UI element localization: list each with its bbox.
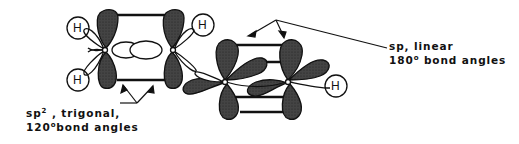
sp-label-line2: 180o bond angles: [389, 53, 506, 67]
hydrogen-label: H: [73, 21, 82, 35]
sp2-molecule: [67, 10, 214, 91]
sp2-label-line2: 120obond angles: [26, 120, 139, 134]
sp-label: sp, linear 180o bond angles: [389, 39, 506, 67]
sp2-label: sp2 , trigonal, 120obond angles: [26, 106, 139, 134]
sp-label-line1: sp, linear: [389, 39, 506, 53]
sp2-label-line1: sp2 , trigonal,: [26, 106, 139, 120]
hydrogen-label: H: [198, 18, 207, 32]
sp-molecule: [183, 40, 347, 119]
hydrogen-label: H: [73, 73, 82, 87]
sp2-pointer: [120, 85, 154, 103]
hydrogen-label: H: [331, 79, 340, 93]
